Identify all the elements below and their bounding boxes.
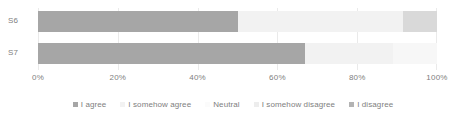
- x-tick-label-3: 60%: [269, 73, 286, 82]
- legend-swatch-icon: [73, 102, 78, 107]
- legend-label: Neutral: [213, 100, 240, 109]
- bar-row-s7: [38, 43, 437, 64]
- plot-area: [38, 8, 437, 70]
- x-tick-label-2: 40%: [189, 73, 206, 82]
- legend-item-i-somehow-disagree[interactable]: I somehow disagree: [254, 100, 335, 109]
- legend-label: I somehow agree: [128, 100, 191, 109]
- x-tick-label-4: 80%: [349, 73, 366, 82]
- category-label-s6: S6: [8, 16, 34, 25]
- legend-swatch-icon: [120, 102, 125, 107]
- bar-row-s6: [38, 11, 437, 32]
- legend-item-i-disagree[interactable]: I disagree: [349, 100, 393, 109]
- legend-item-i-somehow-agree[interactable]: I somehow agree: [120, 100, 191, 109]
- x-tick-label-1: 20%: [109, 73, 126, 82]
- legend-swatch-icon: [254, 102, 259, 107]
- legend-swatch-icon: [205, 102, 210, 107]
- x-tick-label-5: 100%: [426, 73, 447, 82]
- x-tick-label-0: 0%: [32, 73, 44, 82]
- bar-segment: [305, 43, 393, 64]
- bar-segment: [38, 43, 305, 64]
- stacked-bar-chart: S6 S7 0% 20% 40% 60% 80% 100% I agree I …: [0, 0, 466, 119]
- legend-label: I somehow disagree: [262, 100, 335, 109]
- x-axis: 0% 20% 40% 60% 80% 100%: [0, 70, 466, 86]
- bar-segment: [238, 11, 404, 32]
- bar-segment: [38, 11, 238, 32]
- bar-segment: [403, 11, 437, 32]
- legend-label: I agree: [81, 100, 107, 109]
- bar-segment: [393, 43, 437, 64]
- legend-item-i-agree[interactable]: I agree: [73, 100, 107, 109]
- legend-item-neutral[interactable]: Neutral: [205, 100, 240, 109]
- chart-legend: I agree I somehow agree Neutral I someho…: [0, 96, 466, 112]
- legend-swatch-icon: [349, 102, 354, 107]
- category-label-s7: S7: [8, 48, 34, 57]
- legend-label: I disagree: [357, 100, 393, 109]
